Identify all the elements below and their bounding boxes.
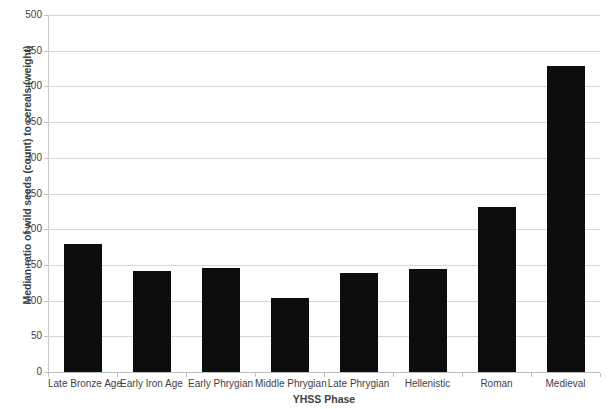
bar	[547, 66, 585, 372]
x-axis-tick-mark	[462, 373, 463, 377]
bar	[64, 244, 102, 372]
bar	[133, 271, 171, 372]
x-axis-category-label: Middle Phrygian	[255, 378, 324, 390]
x-axis-tick-mark	[117, 373, 118, 377]
x-axis-tick-mark	[48, 373, 49, 377]
x-axis-category-label: Roman	[462, 378, 531, 390]
y-axis-tick-label: 200	[4, 224, 42, 234]
bar	[409, 269, 447, 372]
bar	[478, 207, 516, 372]
x-axis-tick-mark	[600, 373, 601, 377]
y-axis-title: Median ratio of wild seeds (count) to ce…	[18, 5, 36, 345]
x-axis-tick-mark	[255, 373, 256, 377]
y-axis-tick-label: 300	[4, 153, 42, 163]
x-axis-tick-mark	[186, 373, 187, 377]
plot-area	[48, 15, 600, 372]
bar	[271, 298, 309, 372]
x-axis-category-label: Late Bronze Age	[48, 378, 117, 390]
x-axis-category-label: Medieval	[531, 378, 600, 390]
x-axis-title: YHSS Phase	[48, 393, 600, 405]
y-axis-tick-label: 350	[4, 117, 42, 127]
x-axis-tick-mark	[531, 373, 532, 377]
y-axis-tick-label: 0	[4, 367, 42, 377]
y-axis-tick-label: 100	[4, 296, 42, 306]
x-axis-category-label: Early Iron Age	[117, 378, 186, 390]
y-axis-tick-label: 500	[4, 10, 42, 20]
y-axis-tick-label: 400	[4, 81, 42, 91]
x-axis-category-label: Late Phrygian	[324, 378, 393, 390]
bar	[202, 268, 240, 372]
x-axis-category-label: Early Phrygian	[186, 378, 255, 390]
y-axis-tick-label: 250	[4, 189, 42, 199]
x-axis-tick-mark	[393, 373, 394, 377]
bar-chart: Median ratio of wild seeds (count) to ce…	[0, 0, 612, 409]
y-axis-tick-label: 450	[4, 46, 42, 56]
x-axis-tick-mark	[324, 373, 325, 377]
y-axis-tick-label: 150	[4, 260, 42, 270]
y-axis-tick-label: 50	[4, 331, 42, 341]
bar	[340, 273, 378, 372]
x-axis-category-label: Hellenistic	[393, 378, 462, 390]
